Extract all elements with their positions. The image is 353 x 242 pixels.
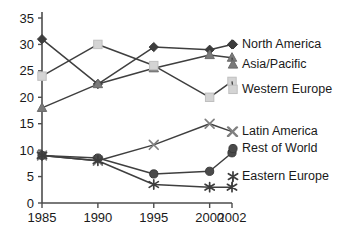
y-tick-label: 35 <box>20 11 34 26</box>
x-axis: 19851990199520002002 <box>28 203 247 225</box>
data-point-marker <box>205 93 213 101</box>
data-point-marker <box>149 42 158 51</box>
label-anchor-marker <box>228 40 237 49</box>
series-line <box>42 44 232 97</box>
x-tick-label: 1985 <box>28 210 57 225</box>
series-label: Western Europe <box>242 82 332 96</box>
series-labels: North AmericaAsia/PacificWestern EuropeL… <box>242 37 332 183</box>
series-label: Asia/Pacific <box>242 57 307 71</box>
series-label: Eastern Europe <box>242 169 329 183</box>
y-tick-label: 0 <box>27 196 34 211</box>
data-point-marker <box>206 167 214 175</box>
label-anchor-marker <box>229 144 237 152</box>
data-point-marker <box>149 140 158 149</box>
series-layer <box>37 35 237 192</box>
y-tick-label: 25 <box>20 63 34 78</box>
series-label: Rest of World <box>242 141 318 155</box>
series-line <box>42 153 232 174</box>
y-tick-label: 5 <box>27 169 34 184</box>
series-line <box>42 124 232 161</box>
label-anchor-marker <box>228 172 237 181</box>
y-tick-label: 30 <box>20 37 34 52</box>
x-tick-label: 1990 <box>83 210 112 225</box>
data-point-marker <box>38 72 46 80</box>
x-tick-label: 1995 <box>139 210 168 225</box>
data-point-marker <box>150 170 158 178</box>
data-point-marker <box>150 61 158 69</box>
x-tick-label: 2002 <box>218 210 247 225</box>
data-point-marker <box>94 40 102 48</box>
line-chart: 05101520253035 19851990199520002002 Nort… <box>0 0 353 242</box>
y-tick-label: 15 <box>20 116 34 131</box>
label-anchor-marker <box>229 85 237 93</box>
chart-canvas: 05101520253035 19851990199520002002 Nort… <box>0 0 353 242</box>
y-tick-label: 10 <box>20 143 34 158</box>
series-label: Latin America <box>242 124 318 138</box>
y-tick-label: 20 <box>20 90 34 105</box>
data-point-marker <box>205 119 214 128</box>
series-line <box>42 39 232 84</box>
series-label: North America <box>242 37 321 51</box>
